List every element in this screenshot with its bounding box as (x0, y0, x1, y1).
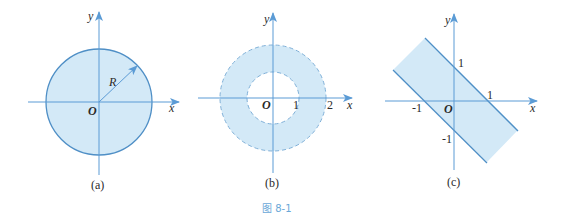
y-axis-label: y (444, 13, 451, 27)
origin-label: O (88, 104, 97, 118)
tick-label-y-pos: 1 (458, 56, 464, 70)
y-axis-label: y (263, 12, 270, 26)
x-axis-label: x (529, 101, 536, 115)
panel-a: y x O R (a) (28, 9, 179, 192)
panel-b: y x O 1 2 (b) (198, 12, 353, 190)
tick-label-1: 1 (293, 98, 299, 112)
panel-b-sublabel: (b) (265, 176, 279, 190)
x-axis-label: x (346, 98, 353, 112)
radius-label: R (108, 75, 117, 89)
origin-label: O (444, 102, 453, 116)
tick-label-x-pos: 1 (487, 88, 493, 102)
strip-region (393, 38, 518, 162)
panel-c: y x O 1 1 -1 -1 (c) (385, 13, 537, 189)
tick-label-y-neg: -1 (442, 132, 452, 146)
figure-caption: 图 8-1 (262, 203, 292, 214)
figure-8-1: y x O R (a) y x O 1 2 (b) y (0, 0, 567, 215)
tick-label-2: 2 (327, 98, 333, 112)
tick-label-x-neg: -1 (412, 101, 422, 115)
x-axis-label: x (168, 101, 175, 115)
panel-c-sublabel: (c) (447, 175, 460, 189)
y-axis-label: y (87, 9, 94, 23)
origin-label: O (262, 98, 271, 112)
panel-a-sublabel: (a) (91, 178, 104, 192)
